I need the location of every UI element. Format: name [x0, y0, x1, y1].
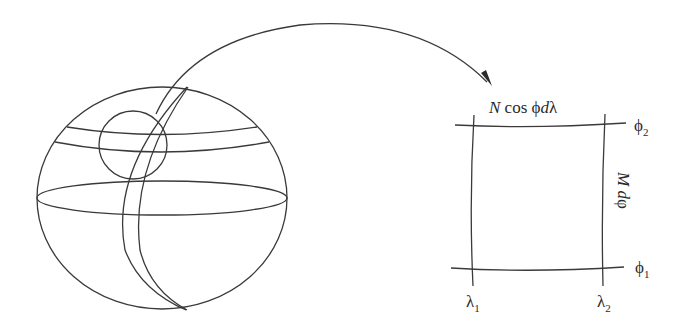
ellipsoid-outline [37, 87, 287, 309]
label-M: M [614, 172, 633, 186]
label-phi2: ϕ2 [634, 117, 648, 134]
phi1-subscript: 1 [644, 268, 650, 280]
label-phi-side: φ [614, 199, 633, 209]
label-N: N [489, 98, 500, 117]
lambda1-subscript: 1 [474, 302, 480, 314]
label-n-cos-phi-dlambda: N cos ϕdλ [489, 99, 557, 116]
label-d: d [540, 98, 549, 117]
label-lambda: λ [549, 98, 557, 117]
parallel-phi2 [455, 123, 626, 127]
lambda2-symbol: λ [597, 292, 605, 311]
parallel-phi1 [451, 267, 624, 270]
label-cos: cos [500, 98, 531, 117]
label-phi1: ϕ1 [635, 259, 649, 276]
meridian-lambda1 [471, 115, 474, 286]
equator [37, 181, 287, 215]
diagram-canvas: N cos ϕdλ ϕ2 ϕ1 λ1 λ2 M dφ [0, 0, 690, 335]
meridian-lambda2 [602, 114, 605, 286]
label-m-dphi: M dφ [615, 172, 632, 209]
meridian-2 [139, 87, 188, 310]
label-lambda1: λ1 [466, 293, 480, 310]
curved-arrow [156, 24, 487, 114]
meridian-1 [123, 87, 187, 310]
parallel-upper-2 [55, 142, 269, 152]
lambda1-symbol: λ [466, 292, 474, 311]
label-d-side: d [614, 186, 633, 199]
diagram-svg [0, 0, 690, 335]
phi2-symbol: ϕ [634, 116, 643, 135]
lambda2-subscript: 2 [605, 302, 611, 314]
phi1-symbol: ϕ [635, 258, 644, 277]
label-lambda2: λ2 [597, 293, 611, 310]
phi2-subscript: 2 [643, 126, 649, 138]
